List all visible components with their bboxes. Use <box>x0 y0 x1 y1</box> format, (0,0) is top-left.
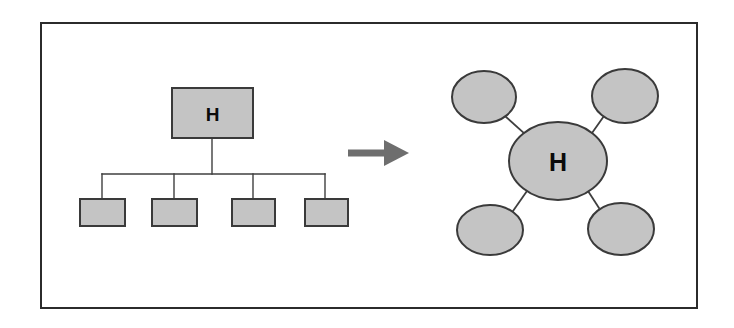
satellite-node-top-left[interactable] <box>452 71 516 123</box>
tree-child-box[interactable] <box>232 199 275 226</box>
tree-root-box[interactable] <box>172 88 253 138</box>
tree-child-node-1[interactable] <box>80 199 125 226</box>
hub-node[interactable]: H <box>509 122 607 200</box>
satellite-bottom-left[interactable] <box>457 205 523 255</box>
satellite-node-top-right[interactable] <box>592 69 658 123</box>
arrow-head-icon <box>384 140 409 166</box>
diagram-graphics: H <box>0 0 734 328</box>
arrow-shaft <box>348 150 387 157</box>
transformation-arrow <box>348 140 409 166</box>
hub-and-spoke-network: H <box>452 69 658 255</box>
spoke-bottom-right <box>588 191 599 208</box>
hierarchy-tree: H <box>80 88 348 226</box>
satellite-node-bottom-right[interactable] <box>588 203 654 255</box>
spoke-top-left <box>506 117 525 134</box>
satellite-top-right[interactable] <box>592 69 658 123</box>
spoke-bottom-left <box>513 191 527 211</box>
tree-connectors <box>102 138 325 199</box>
tree-child-box[interactable] <box>305 199 348 226</box>
tree-root-node[interactable]: H <box>172 88 253 138</box>
diagram-canvas: H <box>0 0 734 328</box>
tree-child-box[interactable] <box>80 199 125 226</box>
tree-child-node-3[interactable] <box>232 199 275 226</box>
satellite-top-left[interactable] <box>452 71 516 123</box>
satellite-node-bottom-left[interactable] <box>457 205 523 255</box>
tree-child-node-2[interactable] <box>152 199 197 226</box>
hub-ellipse[interactable] <box>509 122 607 200</box>
satellite-bottom-right[interactable] <box>588 203 654 255</box>
tree-child-node-4[interactable] <box>305 199 348 226</box>
spoke-top-right <box>592 116 604 133</box>
tree-child-box[interactable] <box>152 199 197 226</box>
